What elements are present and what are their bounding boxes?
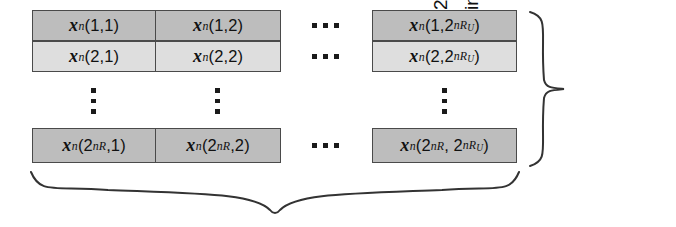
horizontal-ellipsis-row1 bbox=[312, 23, 339, 28]
cell-args: (1,2 bbox=[425, 16, 454, 35]
cell-symbol: x bbox=[186, 135, 196, 156]
cell-args: (2 bbox=[202, 136, 217, 155]
cell-args-mid: , 2 bbox=[444, 136, 463, 155]
codebook-cell-rNc2: xn(2nR,2) bbox=[155, 128, 281, 163]
cell-arg-subscript: U bbox=[476, 143, 483, 153]
bottom-brace bbox=[28, 168, 524, 220]
horizontal-ellipsis-rowN bbox=[312, 143, 339, 148]
codebook-cell-r1c2: xn(1,2) bbox=[155, 10, 281, 41]
cell-args: (2 bbox=[416, 136, 431, 155]
codebook-cell-r2c2: xn(2,2) bbox=[155, 41, 281, 72]
cell-args: (2 bbox=[78, 136, 93, 155]
cell-args: (2,2) bbox=[209, 47, 243, 66]
right-caption-indexed-by: indexed by bbox=[461, 0, 482, 10]
right-caption-line2: indexed by M bbox=[456, 0, 487, 10]
right-caption: 2nR subcodes indexed by M bbox=[426, 0, 490, 10]
cell-arg-exponent: nRU bbox=[454, 56, 474, 57]
cell-arg-exponent2: nRU bbox=[463, 145, 483, 146]
cell-args: (2,1) bbox=[85, 47, 119, 66]
figure-canvas: xn(1,1) xn(1,2) xn(1,2nRU) xn(2,1) xn(2,… bbox=[0, 0, 676, 227]
cell-arg-exponent: nRU bbox=[454, 25, 474, 26]
codebook-cell-r2c3: xn(2,2nRU) bbox=[372, 41, 517, 72]
cell-symbol: x bbox=[400, 135, 410, 156]
cell-arg-subscript: U bbox=[467, 23, 474, 33]
right-caption-base: 2 bbox=[430, 0, 451, 10]
cell-symbol: x bbox=[409, 15, 419, 36]
cell-symbol: x bbox=[69, 46, 79, 67]
vertical-ellipsis-col1 bbox=[91, 88, 96, 114]
codebook-cell-r1c1: xn(1,1) bbox=[32, 10, 156, 41]
cell-symbol: x bbox=[193, 15, 203, 36]
codebook-cell-rNc1: xn(2nR,1) bbox=[32, 128, 156, 163]
cell-args-mid: ,2) bbox=[230, 136, 250, 155]
right-caption-line1: 2nR subcodes bbox=[426, 0, 456, 10]
cell-arg-subscript: U bbox=[467, 54, 474, 64]
codebook-cell-r2c1: xn(2,1) bbox=[32, 41, 156, 72]
cell-symbol: x bbox=[62, 135, 72, 156]
cell-args: (2,2 bbox=[425, 47, 454, 66]
cell-args-close: ) bbox=[474, 47, 480, 66]
vertical-ellipsis-col3 bbox=[442, 88, 447, 114]
codebook-cell-r1c3: xn(1,2nRU) bbox=[372, 10, 517, 41]
cell-symbol: x bbox=[69, 15, 79, 36]
cell-symbol: x bbox=[193, 46, 203, 67]
right-brace bbox=[524, 8, 586, 170]
codebook-cell-rNcN: xn(2nR, 2nRU) bbox=[372, 128, 517, 163]
cell-args: (1,1) bbox=[85, 16, 119, 35]
cell-args-close: ) bbox=[474, 16, 480, 35]
cell-symbol: x bbox=[409, 46, 419, 67]
vertical-ellipsis-col2 bbox=[215, 88, 220, 114]
horizontal-ellipsis-row2 bbox=[312, 54, 339, 59]
cell-args-mid: ,1) bbox=[106, 136, 126, 155]
cell-args: (1,2) bbox=[209, 16, 243, 35]
cell-args-close: ) bbox=[483, 136, 489, 155]
